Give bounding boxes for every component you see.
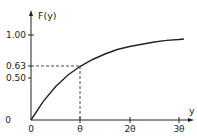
y-axis-label: F(y) <box>38 10 57 21</box>
y-axis-arrow-icon <box>29 10 33 16</box>
y-tick-label-100: 1.00 <box>6 30 26 40</box>
y-tick-label-063: 0.63 <box>6 61 26 71</box>
y-tick-label-050: 0.50 <box>6 73 26 83</box>
x-tick-label-2theta: 2θ <box>124 124 136 134</box>
x-tick-label-theta: θ <box>77 124 83 134</box>
x-axis-label: y <box>189 105 195 116</box>
x-tick-label-0: 0 <box>28 124 34 134</box>
y-tick-label-0: 0 <box>5 115 11 125</box>
x-axis-arrow-icon <box>188 118 194 122</box>
x-tick-label-3theta: 3θ <box>173 124 185 134</box>
cdf-curve <box>31 39 184 120</box>
cdf-chart: F(y) y 1.00 0.63 0.50 0 0 θ 2θ 3θ <box>0 0 197 140</box>
